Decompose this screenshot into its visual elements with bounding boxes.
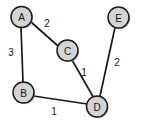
node-e-label: E xyxy=(115,13,122,24)
graph-canvas: A B C D E 2 xyxy=(0,0,141,130)
node-e[interactable]: E xyxy=(108,7,130,29)
weighted-graph-diagram: A B C D E 2 xyxy=(0,0,141,130)
edge-weight-e-d: 2 xyxy=(114,57,120,68)
edge-weight-a-b: 3 xyxy=(8,47,14,58)
node-d[interactable]: D xyxy=(87,96,109,118)
node-c-label: C xyxy=(64,46,71,57)
node-d-label: D xyxy=(93,102,100,113)
edge-weight-c-d: 1 xyxy=(81,67,87,78)
node-a[interactable]: A xyxy=(11,7,33,29)
edge-e-d xyxy=(100,28,115,97)
edge-group xyxy=(21,22,115,104)
node-b[interactable]: B xyxy=(13,82,35,104)
node-c[interactable]: C xyxy=(57,40,79,62)
edge-b-d xyxy=(34,96,88,104)
node-a-label: A xyxy=(18,12,25,23)
node-b-label: B xyxy=(20,88,27,99)
edge-weight-b-d: 1 xyxy=(51,106,57,117)
edge-c-d xyxy=(72,60,93,97)
edge-a-b xyxy=(21,28,23,83)
edge-weight-a-c: 2 xyxy=(44,18,50,29)
